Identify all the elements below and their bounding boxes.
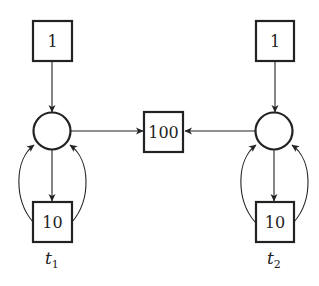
- top-right-box: 1: [256, 21, 294, 61]
- label-t2: t2: [267, 248, 281, 271]
- bottom-left-box-label: 10: [42, 213, 62, 232]
- bottom-right-box: 10: [256, 202, 294, 242]
- left-place-circle: [34, 113, 71, 150]
- center-box-label: 100: [148, 123, 179, 142]
- bottom-right-box-label: 10: [265, 213, 285, 232]
- top-left-box: 1: [33, 21, 72, 61]
- edge-bottom-right-loop-left: [241, 145, 256, 222]
- edge-bottom-left-loop-left: [19, 145, 34, 222]
- top-left-box-label: 1: [47, 32, 57, 51]
- top-right-box-label: 1: [270, 32, 280, 51]
- center-box: 100: [144, 112, 183, 152]
- bottom-left-box: 10: [33, 202, 72, 242]
- petri-net-diagram: 1 10 t1 100 1 10 t2: [0, 0, 319, 286]
- label-t1: t1: [45, 248, 59, 271]
- right-place-circle: [256, 113, 293, 150]
